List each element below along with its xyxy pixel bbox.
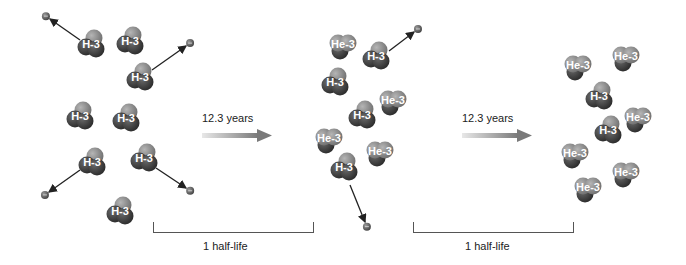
emission-arrow [152, 46, 186, 70]
half-life-bracket-1 [153, 222, 314, 233]
tritium-nucleus: H-3 [127, 63, 154, 91]
helium3-nucleus: He-3 [316, 129, 343, 154]
time-arrow-icon [202, 133, 258, 138]
half-life-bracket-2 [413, 222, 574, 233]
tritium-nucleus: H-3 [322, 68, 349, 96]
emission-arrow [156, 168, 186, 188]
nucleus-label: H-3 [326, 76, 344, 88]
time-arrows [202, 129, 532, 142]
emission-arrow [50, 19, 80, 40]
nucleus-label: He-3 [317, 132, 341, 144]
tritium-nucleus: H-3 [78, 30, 105, 58]
nucleus-label: He-3 [614, 50, 638, 62]
helium3-nucleus: He-3 [367, 142, 394, 167]
helium3-nucleus: He-3 [330, 35, 357, 60]
half-life-diagram: H-3H-3H-3H-3H-3H-3H-3H-3He-3H-3H-3He-3H-… [0, 0, 686, 265]
nucleus-label: H-3 [71, 110, 89, 122]
tritium-nucleus: H-3 [586, 82, 613, 110]
nucleus-label: H-3 [121, 35, 139, 47]
nucleus-label: He-3 [331, 38, 355, 50]
nucleus-label: He-3 [626, 111, 650, 123]
helium3-nucleus: He-3 [613, 47, 640, 72]
half-life-label-1: 1 half-life [203, 240, 248, 252]
emission-arrow [49, 170, 80, 192]
tritium-nucleus: H-3 [113, 104, 140, 132]
nucleus-label: H-3 [353, 109, 371, 121]
time-label-1: 12.3 years [202, 112, 253, 124]
nucleus-label: He-3 [563, 147, 587, 159]
time-label-2: 12.3 years [462, 112, 513, 124]
tritium-nucleus: H-3 [107, 197, 134, 225]
nucleus-label: He-3 [614, 166, 638, 178]
nucleus-label: H-3 [590, 90, 608, 102]
tritium-nucleus: H-3 [79, 148, 106, 176]
nucleus-label: He-3 [566, 59, 590, 71]
tritium-nucleus: H-3 [363, 42, 390, 70]
nucleus-label: H-3 [83, 156, 101, 168]
half-life-label-2: 1 half-life [465, 240, 510, 252]
tritium-nucleus: H-3 [331, 153, 358, 181]
emission-arrow [389, 32, 414, 51]
nucleus-label: He-3 [576, 181, 600, 193]
helium3-nucleus: He-3 [625, 108, 652, 133]
tritium-nucleus: H-3 [349, 101, 376, 129]
nucleus-label: H-3 [135, 152, 153, 164]
helium3-nucleus: He-3 [562, 144, 589, 169]
nucleus-label: H-3 [599, 124, 617, 136]
nucleus-label: He-3 [381, 94, 405, 106]
nucleus-label: H-3 [131, 71, 149, 83]
nucleus-label: H-3 [117, 112, 135, 124]
nuclei-group: H-3H-3H-3H-3H-3H-3H-3H-3He-3H-3H-3He-3H-… [67, 27, 652, 225]
nucleus-label: H-3 [111, 205, 129, 217]
helium3-nucleus: He-3 [380, 91, 407, 116]
nucleus-label: H-3 [82, 38, 100, 50]
tritium-nucleus: H-3 [117, 27, 144, 55]
emission-arrow [350, 185, 365, 222]
nucleus-label: H-3 [335, 161, 353, 173]
time-arrow-icon [462, 133, 518, 138]
helium3-nucleus: He-3 [613, 163, 640, 188]
tritium-nucleus: H-3 [595, 116, 622, 144]
nucleus-label: H-3 [367, 50, 385, 62]
tritium-nucleus: H-3 [67, 102, 94, 130]
helium3-nucleus: He-3 [575, 178, 602, 203]
diagram-canvas: H-3H-3H-3H-3H-3H-3H-3H-3He-3H-3H-3He-3H-… [0, 0, 686, 265]
tritium-nucleus: H-3 [131, 144, 158, 172]
helium3-nucleus: He-3 [565, 56, 592, 81]
nucleus-label: He-3 [368, 145, 392, 157]
